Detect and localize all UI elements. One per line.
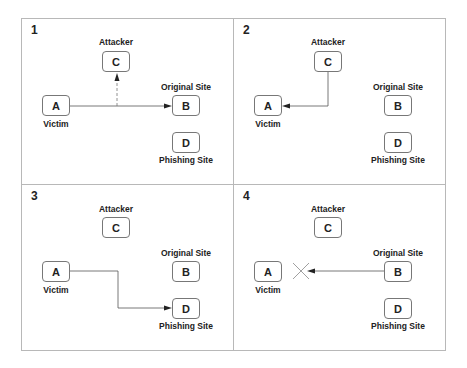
panel-1: 1 Attacker C Original Site A B Victim D … <box>21 18 233 184</box>
arrowhead-icon <box>282 104 290 109</box>
arrowhead-icon <box>164 306 172 311</box>
arrowhead-icon <box>307 269 315 274</box>
edges <box>233 18 445 184</box>
panel-2: 2 Attacker C Original Site A B Victim D … <box>233 18 445 184</box>
arrowhead-icon <box>115 73 120 81</box>
panel-4: 4 Attacker C Original Site A B Victim D … <box>233 184 445 350</box>
edges <box>21 18 233 184</box>
panel-3: 3 Attacker C Original Site A B Victim D … <box>21 184 233 350</box>
edges <box>21 184 233 350</box>
arrowhead-icon <box>164 104 172 109</box>
blocked-x-icon <box>293 263 309 279</box>
edges <box>233 184 445 350</box>
